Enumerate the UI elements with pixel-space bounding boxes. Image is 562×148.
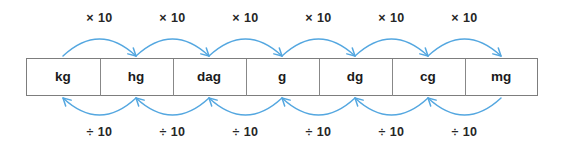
unit-cell-label: hg	[128, 69, 145, 84]
conversion-arc-forward	[282, 39, 355, 56]
diagram-canvas: kghgdaggdgcgmg × 10× 10× 10× 10× 10× 10 …	[0, 0, 562, 148]
multiply-operation-label: × 10	[305, 11, 331, 25]
conversion-arc-reverse	[428, 98, 501, 115]
unit-cell-label: dag	[197, 69, 221, 84]
top-operation-label-group: × 10× 10× 10× 10× 10× 10	[86, 11, 477, 25]
divide-operation-label: ÷ 10	[233, 125, 259, 139]
multiply-operation-label: × 10	[232, 11, 258, 25]
multiply-operation-label: × 10	[378, 11, 404, 25]
multiply-operation-label: × 10	[159, 11, 185, 25]
conversion-arc-forward	[209, 39, 282, 56]
divide-operation-label: ÷ 10	[87, 125, 113, 139]
top-arrow-group	[63, 39, 501, 56]
conversion-arc-reverse	[282, 98, 355, 115]
conversion-arc-reverse	[63, 98, 136, 115]
unit-cell-label: mg	[491, 69, 511, 84]
bottom-arrow-group	[63, 98, 501, 115]
bottom-operation-label-group: ÷ 10÷ 10÷ 10÷ 10÷ 10÷ 10	[87, 125, 478, 139]
divide-operation-label: ÷ 10	[379, 125, 405, 139]
unit-cell-label: g	[278, 69, 286, 84]
conversion-arc-forward	[428, 39, 501, 56]
unit-cell-label: kg	[55, 69, 71, 84]
conversion-arc-forward	[63, 39, 136, 56]
conversion-arc-reverse	[136, 98, 209, 115]
multiply-operation-label: × 10	[451, 11, 477, 25]
conversion-arc-forward	[136, 39, 209, 56]
metric-conversion-diagram: kghgdaggdgcgmg × 10× 10× 10× 10× 10× 10 …	[0, 0, 562, 148]
unit-cell-label: cg	[420, 69, 436, 84]
divide-operation-label: ÷ 10	[306, 125, 332, 139]
divide-operation-label: ÷ 10	[160, 125, 186, 139]
unit-cell-label: dg	[347, 69, 364, 84]
divide-operation-label: ÷ 10	[452, 125, 478, 139]
conversion-arc-forward	[355, 39, 428, 56]
multiply-operation-label: × 10	[86, 11, 112, 25]
conversion-arc-reverse	[209, 98, 282, 115]
conversion-arc-reverse	[355, 98, 428, 115]
